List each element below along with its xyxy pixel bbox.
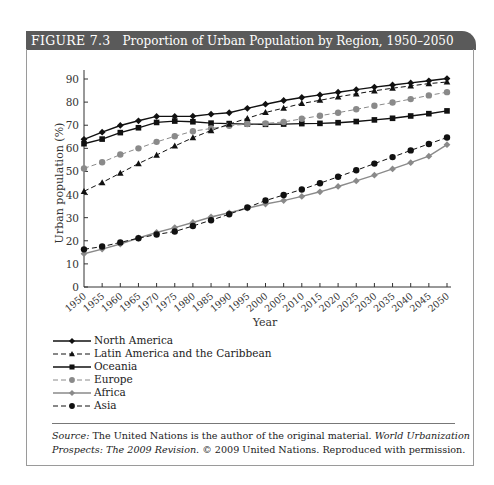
legend-item: Oceania bbox=[52, 360, 272, 373]
y-tick-label: 20 bbox=[66, 235, 79, 247]
x-tick-label: 2050 bbox=[426, 290, 452, 314]
legend-item: North America bbox=[52, 334, 272, 347]
line-chart: 0102030405060708090195019551960196519701… bbox=[0, 0, 494, 330]
source-label: Source: bbox=[52, 430, 89, 441]
source-divider bbox=[52, 423, 455, 424]
legend-swatch-diamond-icon bbox=[52, 388, 92, 398]
y-axis-label: Urban population (%) bbox=[53, 123, 66, 244]
y-tick-label: 10 bbox=[66, 258, 79, 270]
axes: 0102030405060708090195019551960196519701… bbox=[53, 70, 451, 329]
legend-swatch-diamond-icon bbox=[52, 336, 92, 346]
legend-item: Asia bbox=[52, 399, 272, 412]
series-asia bbox=[81, 134, 450, 252]
source-text-1: The United Nations is the author of the … bbox=[89, 430, 374, 441]
series-latin-america-and-the-caribbean bbox=[81, 79, 451, 194]
chart-legend: North AmericaLatin America and the Carib… bbox=[52, 334, 272, 412]
legend-label: North America bbox=[94, 334, 173, 347]
legend-item: Europe bbox=[52, 373, 272, 386]
y-tick-label: 90 bbox=[66, 73, 79, 85]
y-tick-label: 50 bbox=[66, 165, 79, 177]
legend-swatch-circle-icon bbox=[52, 375, 92, 385]
legend-label: Asia bbox=[94, 399, 117, 412]
legend-swatch-triangle-icon bbox=[52, 349, 92, 359]
legend-label: Africa bbox=[94, 386, 126, 399]
y-tick-label: 0 bbox=[72, 281, 79, 293]
y-tick-label: 30 bbox=[66, 212, 79, 224]
source-text-2: © 2009 United Nations. Reproduced with p… bbox=[199, 444, 465, 455]
y-tick-label: 60 bbox=[66, 142, 79, 154]
x-axis-label: Year bbox=[252, 316, 278, 329]
legend-swatch-square-icon bbox=[52, 362, 92, 372]
series-north-america bbox=[81, 75, 451, 143]
source-note: Source: The United Nations is the author… bbox=[52, 429, 472, 456]
legend-swatch-circle-icon bbox=[52, 401, 92, 411]
legend-label: Latin America and the Caribbean bbox=[94, 347, 272, 360]
legend-item: Latin America and the Caribbean bbox=[52, 347, 272, 360]
legend-label: Oceania bbox=[94, 360, 137, 373]
y-tick-label: 40 bbox=[66, 189, 79, 201]
y-tick-label: 80 bbox=[66, 96, 79, 108]
legend-item: Africa bbox=[52, 386, 272, 399]
legend-label: Europe bbox=[94, 373, 133, 386]
y-tick-label: 70 bbox=[66, 119, 79, 131]
